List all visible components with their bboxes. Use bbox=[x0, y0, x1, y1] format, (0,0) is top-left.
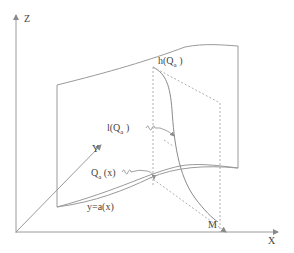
l-wavy-arrow bbox=[146, 126, 174, 136]
q-label: Qa (x) bbox=[91, 167, 116, 181]
y-axis bbox=[16, 145, 101, 232]
projection-lines bbox=[150, 67, 226, 232]
q-wavy-arrow bbox=[122, 170, 154, 179]
curve-label: y=a(x) bbox=[87, 201, 114, 213]
curve-a bbox=[57, 167, 238, 207]
x-axis-label: X bbox=[268, 235, 276, 246]
axes bbox=[16, 15, 278, 233]
surface-bottom-curve bbox=[57, 167, 238, 207]
y-axis-label: Y bbox=[92, 143, 99, 154]
h-label: h(Qa ) bbox=[158, 55, 183, 69]
diagram-figure: Z X Y h(Qa ) l(Qa ) Qa (x) y=a(x) M bbox=[0, 0, 294, 253]
point-m-label: M bbox=[208, 219, 217, 230]
l-label: l(Qa ) bbox=[107, 122, 129, 136]
h-curve bbox=[153, 67, 218, 222]
z-axis-label: Z bbox=[24, 13, 30, 24]
